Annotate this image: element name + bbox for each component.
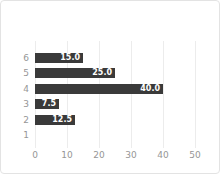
category-label: 6 <box>13 52 29 64</box>
bar-value-label: 25.0 <box>92 68 115 78</box>
gridline <box>163 41 164 148</box>
category-label: 4 <box>13 83 29 95</box>
category-label: 1 <box>13 129 29 141</box>
bar: 12.5 <box>35 115 75 125</box>
bar: 15.0 <box>35 53 83 63</box>
category-label: 3 <box>13 98 29 110</box>
bar-value-label: 40.0 <box>140 84 163 94</box>
bar: 25.0 <box>35 68 115 78</box>
x-tick-label: 20 <box>88 150 110 161</box>
gridline <box>195 41 196 148</box>
x-tick-label: 10 <box>56 150 78 161</box>
x-tick-label: 50 <box>184 150 206 161</box>
bar: 40.0 <box>35 84 163 94</box>
category-label: 2 <box>13 114 29 126</box>
x-tick-label: 0 <box>24 150 46 161</box>
x-tick-label: 30 <box>120 150 142 161</box>
bar-chart-card: 615.0525.0440.037.5212.51 01020304050 <box>0 0 220 174</box>
bar-value-label: 15.0 <box>60 53 83 63</box>
x-tick-label: 40 <box>152 150 174 161</box>
bar-value-label: 7.5 <box>42 99 59 109</box>
bar: 7.5 <box>35 99 59 109</box>
gridline <box>99 41 100 148</box>
plot-area: 615.0525.0440.037.5212.51 <box>35 41 195 148</box>
bar-value-label: 12.5 <box>52 115 75 125</box>
gridline <box>131 41 132 148</box>
category-label: 5 <box>13 67 29 79</box>
